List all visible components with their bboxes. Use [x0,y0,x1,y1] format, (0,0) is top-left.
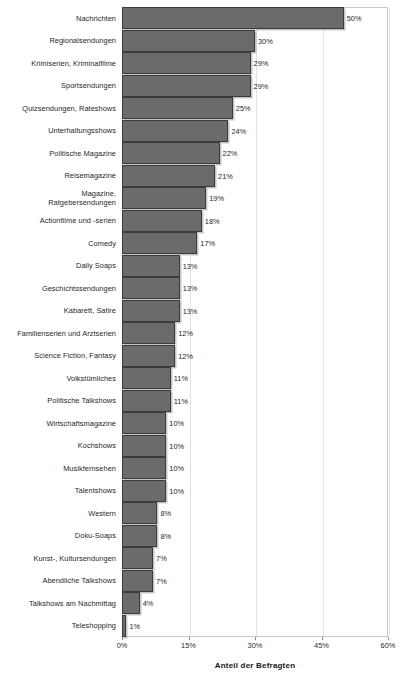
bar[interactable] [122,300,180,322]
bar[interactable] [122,525,157,547]
bar-track: 13% [122,255,388,277]
bar-row: Actionfilme und -serien18% [0,210,408,232]
category-label: Magazine, Ratgebersendungen [0,189,116,207]
bar[interactable] [122,187,206,209]
category-label: Talentshows [0,486,116,495]
bar-value-label: 21% [215,171,233,180]
bar[interactable] [122,30,255,52]
bar-track: 50% [122,7,388,29]
bar-value-label: 13% [180,306,198,315]
bar[interactable] [122,345,175,367]
category-label: Quizsendungen, Rateshows [0,104,116,113]
category-label: Krimiserien, Kriminalfilme [0,59,116,68]
category-label: Sportsendungen [0,81,116,90]
bar-row: Sportsendungen29% [0,75,408,97]
bar-row: Politische Magazine22% [0,142,408,164]
bar-track: 12% [122,322,388,344]
bar-value-label: 18% [202,216,220,225]
bar-value-label: 7% [153,576,167,585]
category-label: Western [0,509,116,518]
bar-track: 10% [122,412,388,434]
bar-value-label: 11% [171,374,188,383]
bar-row: Reisemagazine21% [0,165,408,187]
category-label: Kochshows [0,441,116,450]
x-tick-mark [388,637,389,640]
category-label: Musikfernsehen [0,464,116,473]
bar-row: Geschichtssendungen13% [0,277,408,299]
category-label: Abendliche Talkshows [0,576,116,585]
category-label: Geschichtssendungen [0,284,116,293]
bar-row: Talentshows10% [0,480,408,502]
bar[interactable] [122,390,171,412]
bar-track: 19% [122,187,388,209]
bar[interactable] [122,210,202,232]
bar-value-label: 24% [228,126,246,135]
bar-track: 8% [122,525,388,547]
bar-row: Regionalsendungen30% [0,30,408,52]
bar-value-label: 50% [344,14,362,23]
bar-row: Magazine, Ratgebersendungen19% [0,187,408,209]
bar[interactable] [122,277,180,299]
bar-row: Doku-Soaps8% [0,525,408,547]
bar-rows: Nachrichten50%Regionalsendungen30%Krimis… [0,7,408,637]
x-tick-mark [322,637,323,640]
bar[interactable] [122,232,197,254]
bar[interactable] [122,75,251,97]
bar[interactable] [122,120,228,142]
bar-track: 10% [122,480,388,502]
bar[interactable] [122,592,140,614]
bar-row: Krimiserien, Kriminalfilme29% [0,52,408,74]
bar[interactable] [122,7,344,29]
bar-track: 4% [122,592,388,614]
bar-value-label: 29% [251,59,269,68]
bar-track: 29% [122,75,388,97]
bar[interactable] [122,570,153,592]
bar[interactable] [122,547,153,569]
bar-row: Familienserien und Arztserien12% [0,322,408,344]
bar-chart: Nachrichten50%Regionalsendungen30%Krimis… [0,0,408,684]
x-tick-mark [122,637,123,640]
bar[interactable] [122,97,233,119]
bar-value-label: 19% [206,194,224,203]
bar-row: Nachrichten50% [0,7,408,29]
bar-track: 30% [122,30,388,52]
category-label: Familienserien und Arztserien [0,329,116,338]
bar[interactable] [122,457,166,479]
bar[interactable] [122,142,220,164]
bar-track: 22% [122,142,388,164]
bar-track: 11% [122,367,388,389]
bar-value-label: 25% [233,104,251,113]
bar-row: Talkshows am Nachmittag4% [0,592,408,614]
bar-track: 21% [122,165,388,187]
x-tick-label: 30% [248,641,263,650]
bar-value-label: 12% [175,329,193,338]
bar[interactable] [122,412,166,434]
bar-track: 7% [122,547,388,569]
bar[interactable] [122,322,175,344]
bar-value-label: 22% [220,149,238,158]
category-label: Science Fiction, Fantasy [0,351,116,360]
bar[interactable] [122,502,157,524]
category-label: Comedy [0,239,116,248]
bar-row: Science Fiction, Fantasy12% [0,345,408,367]
category-label: Nachrichten [0,14,116,23]
bar-row: Comedy17% [0,232,408,254]
category-label: Teleshopping [0,621,116,630]
bar-row: Daily Soaps13% [0,255,408,277]
category-label: Doku-Soaps [0,531,116,540]
bar-track: 13% [122,300,388,322]
category-label: Wirtschaftsmagazine [0,419,116,428]
x-tick-label: 60% [381,641,396,650]
bar[interactable] [122,435,166,457]
bar[interactable] [122,52,251,74]
bar-track: 10% [122,457,388,479]
bar[interactable] [122,255,180,277]
bar-value-label: 12% [175,351,193,360]
bar[interactable] [122,165,215,187]
bar-value-label: 10% [166,419,184,428]
bar[interactable] [122,480,166,502]
bar[interactable] [122,367,171,389]
category-label: Reisemagazine [0,171,116,180]
bar-row: Quizsendungen, Rateshows25% [0,97,408,119]
bar-value-label: 17% [197,239,215,248]
